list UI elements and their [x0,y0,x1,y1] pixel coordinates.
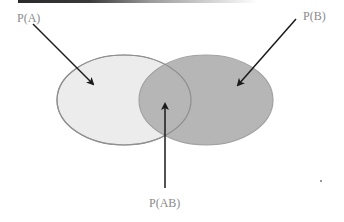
arrow-b-icon [238,19,296,85]
speck-mark [320,180,322,182]
label-p-a: P(A) [17,12,40,24]
label-p-b: P(B) [303,10,326,22]
label-p-ab: P(AB) [149,197,180,209]
venn-diagram [0,0,344,222]
arrow-a-icon [33,24,93,84]
